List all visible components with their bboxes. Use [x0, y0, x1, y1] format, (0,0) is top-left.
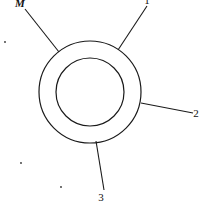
spoke-line-1	[118, 6, 147, 50]
spoke-line-2	[141, 103, 193, 113]
ring-diagram: M123	[0, 0, 205, 205]
stray-dot	[20, 162, 22, 164]
spoke-line-3	[96, 141, 104, 190]
inner-circle	[56, 58, 124, 126]
spoke-label-2: 2	[193, 107, 199, 119]
stray-dot	[4, 41, 6, 43]
spoke-label-M: M	[14, 0, 26, 9]
outer-circle	[39, 41, 141, 143]
spoke-label-3: 3	[98, 191, 104, 203]
spoke-label-1: 1	[144, 0, 150, 6]
stray-dot	[60, 186, 62, 188]
spoke-line-M	[25, 9, 59, 52]
